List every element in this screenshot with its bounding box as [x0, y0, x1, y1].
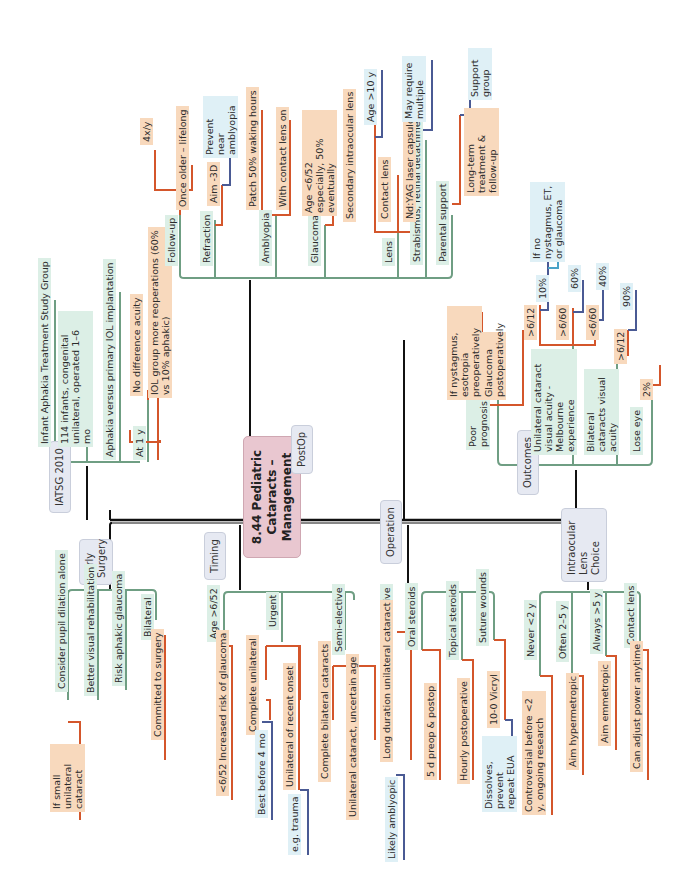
timing-uncertain-age[interactable]: Unilateral cataract, uncertain age — [346, 654, 359, 820]
category-timing[interactable]: Timing — [204, 532, 226, 580]
timing-best-before[interactable]: Best before 4 mo — [255, 730, 268, 818]
iatsg-aphakia-vs-iol[interactable]: Aphakia versus primary IOL implantation — [103, 259, 116, 460]
outcomes-90pct: 90% — [620, 283, 633, 310]
postop-prevent-near[interactable]: Prevent near amblyopia — [203, 96, 238, 158]
iol-emmetropic[interactable]: Aim emmetropic — [598, 661, 611, 746]
postop-contact-lens-on[interactable]: With contact lens on — [276, 107, 289, 210]
postop-amblyopia[interactable]: Amblyopia — [259, 210, 272, 266]
op-suture-wounds[interactable]: Suture wounds — [476, 569, 489, 646]
postop-lens[interactable]: Lens — [382, 238, 395, 266]
postop-refraction[interactable]: Refraction — [200, 211, 213, 266]
postop-age-10[interactable]: Age >10 y — [364, 69, 377, 125]
op-vicryl[interactable]: 10-0 Vicryl — [487, 671, 500, 728]
early-consider-dilation[interactable]: Consider pupil dilation alone — [55, 550, 68, 692]
iol-often[interactable]: Often 2–5 y — [556, 601, 569, 662]
category-postop[interactable]: PostOp — [291, 425, 313, 474]
postop-lifelong[interactable]: Once older – lifelong — [176, 106, 189, 210]
central-topic-title: 8.44 Pediatric Cataracts – Management — [250, 441, 295, 553]
postop-contact-lens[interactable]: Contact lens — [378, 157, 391, 222]
op-oral-steroids[interactable]: Oral steroids — [405, 583, 418, 650]
iatsg-infants[interactable]: 114 infants, congenital unilateral, oper… — [58, 311, 93, 447]
postop-secondary-iol[interactable]: Secondary intraocular lens — [343, 89, 356, 222]
postop-parental-support[interactable]: Parental support — [436, 181, 449, 265]
postop-long-term[interactable]: Long-term treatment & follow-up — [464, 108, 499, 196]
iatsg-group: Infant Aphakia Treatment Study Group — [38, 258, 51, 447]
early-small-unilateral[interactable]: If small unilateral cataract — [50, 744, 85, 812]
outcomes-bilateral[interactable]: Bilateral cataracts visual acuity — [584, 369, 619, 455]
postop-support-group[interactable]: Support group — [468, 48, 492, 100]
iol-contact[interactable]: Contact lens — [624, 583, 637, 648]
timing-increased-risk[interactable]: <6/52 Increased risk of glaucoma — [216, 630, 229, 796]
timing-complete-unilateral[interactable]: Complete unilateral — [246, 635, 259, 735]
postop-may-require[interactable]: May require multiple — [402, 56, 426, 122]
op-5d[interactable]: 5 d preop & postop — [424, 683, 437, 780]
outcomes-2pct: 2% — [640, 379, 653, 400]
postop-follow-up[interactable]: Follow-up — [165, 215, 178, 266]
mindmap-canvas: 8.44 Pediatric Cataracts – Management Ea… — [0, 0, 689, 893]
outcomes-gt-6-60[interactable]: >6/60 — [556, 305, 569, 340]
timing-likely-amblyopic[interactable]: Likely amblyopic — [385, 777, 398, 862]
iol-hypermetropic[interactable]: Aim hypermetropic — [566, 673, 579, 770]
outcomes-40pct: 40% — [596, 263, 609, 290]
outcomes-lt-6-60[interactable]: <6/60 — [586, 305, 599, 340]
timing-urgent[interactable]: Urgent — [266, 592, 279, 630]
category-iol-choice[interactable]: Intraocular Lens Choice — [561, 508, 607, 582]
iol-always[interactable]: Always >5 y — [590, 589, 603, 654]
postop-4xy[interactable]: 4x/y — [140, 119, 153, 146]
category-iatsg[interactable]: IATSG 2010 — [49, 441, 71, 513]
outcomes-poor-prognosis[interactable]: Poor prognosis — [466, 392, 490, 450]
timing-trauma[interactable]: e.g. trauma — [288, 794, 301, 855]
outcomes-gt-6-12[interactable]: >6/12 — [524, 305, 537, 340]
postop-aim-3d[interactable]: Aim -3D — [207, 162, 220, 206]
op-topical-steroids[interactable]: Topical steroids — [446, 581, 459, 660]
op-hourly[interactable]: Hourly postoperative — [457, 678, 470, 784]
iol-adjust[interactable]: Can adjust power anytime — [630, 641, 643, 772]
iatsg-at-1y[interactable]: At 1 y — [133, 426, 146, 460]
early-risk-glaucoma[interactable]: Risk aphakic glaucoma — [112, 571, 125, 686]
op-dissolves[interactable]: Dissolves, prevent repeat EUA — [482, 736, 517, 812]
outcomes-60pct: 60% — [568, 265, 581, 292]
iol-controversial[interactable]: Controversial before <2 y, ongoing resea… — [522, 691, 546, 815]
postop-glaucoma-age[interactable]: Age <6/52 especially, 50% eventually — [302, 110, 337, 216]
category-operation[interactable]: Operation — [380, 500, 402, 564]
timing-long-duration[interactable]: Long duration unilateral cataract — [380, 600, 393, 762]
early-better-rehab[interactable]: Better visual rehabilitation — [84, 564, 97, 696]
early-committed[interactable]: Committed to surgery — [151, 629, 164, 740]
iatsg-no-difference[interactable]: No difference acuity — [130, 294, 143, 396]
iol-never[interactable]: Never <2 y — [524, 600, 537, 660]
outcomes-unilateral[interactable]: Unilateral cataract visual acuity - Melb… — [531, 349, 577, 455]
outcomes-10pct: 10% — [536, 275, 549, 302]
timing-complete-bilateral[interactable]: Complete bilateral cataracts — [318, 641, 331, 782]
postop-glaucoma[interactable]: Glaucoma — [308, 212, 321, 266]
outcomes-lose-eye[interactable]: Lose eye — [630, 407, 643, 455]
outcomes-nystagmus[interactable]: If nystagmus, esotropia preoperatively — [447, 306, 482, 400]
postop-patch[interactable]: Patch 50% waking hours — [246, 87, 259, 210]
timing-semi-elective[interactable]: Semi-elective — [332, 584, 345, 655]
timing-recent-onset[interactable]: Unilateral of recent onset — [283, 663, 296, 790]
outcomes-glaucoma-postop[interactable]: Glaucoma postoperatively — [482, 332, 506, 400]
outcomes-if-no-nystagmus[interactable]: If no nystagmus, ET, or glaucoma — [530, 182, 565, 262]
outcomes-bilateral-gt-6-12[interactable]: >6/12 — [614, 329, 627, 364]
